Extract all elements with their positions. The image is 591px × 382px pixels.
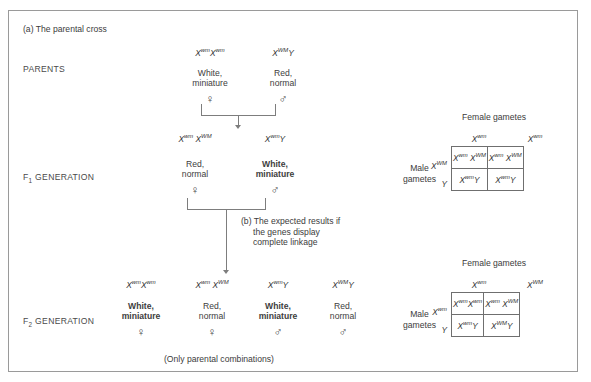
punnett-top-row-header-1: XWM <box>413 160 447 171</box>
punnett-bottom-cell-2-1: XwmY <box>452 315 484 337</box>
f2-offspring-4: XWMY Red, normal ♂ <box>303 279 383 338</box>
panel-b-caption-line1: (b) The expected results if <box>241 216 340 227</box>
f1-male-block: XwmY White, miniature ♂ <box>234 133 316 196</box>
f1-female-block: Xwm XWM Red, normal ♀ <box>154 133 236 196</box>
punnett-top-female-title: Female gametes <box>462 112 526 122</box>
f1-female-sex-symbol: ♀ <box>154 184 236 196</box>
panel-b-caption: (b) The expected results if the genes di… <box>241 216 340 248</box>
punnett-bottom-cell-1-2: Xwm XWM <box>484 293 520 315</box>
parent-male-block: XWMY Red, normal ♂ <box>242 47 324 105</box>
parent-female-block: XwmXwm White, miniature ♀ <box>169 47 251 105</box>
f1-male-phenotype-line2: miniature <box>234 169 316 180</box>
punnett-bottom-col-header-1: Xwm <box>451 279 507 290</box>
punnett-top-col-header-2: Xwm <box>507 133 563 144</box>
parent-male-sex-symbol: ♂ <box>242 93 324 105</box>
f1-male-phenotype-line1: White, <box>234 159 316 170</box>
parent-female-phenotype-line1: White, <box>169 68 251 79</box>
punnett-top-cell-2-1: XwmY <box>452 169 488 191</box>
punnett-top-row-1: Xwm XWM Xwm XWM <box>452 147 524 169</box>
f2-phenotype-4-line2: normal <box>303 311 383 322</box>
f1-female-genotype: Xwm XWM <box>154 133 236 144</box>
f2-sex-symbol-1: ♀ <box>101 326 181 338</box>
f2-phenotype-1-line1: White, <box>101 301 181 312</box>
parent-male-phenotype-line2: normal <box>242 78 324 89</box>
f2-phenotype-1-line2: miniature <box>101 311 181 322</box>
generation-label-f2: F2 GENERATION <box>23 316 94 328</box>
punnett-top-table: Xwm XWM Xwm XWM XwmY XwmY <box>451 146 524 191</box>
punnett-bottom-cell-2-2: XWMY <box>484 315 520 337</box>
f2-phenotype-4-line1: Red, <box>303 301 383 312</box>
parent-male-genotype: XWMY <box>242 47 324 58</box>
f2-genotype-1: XwmXwm <box>101 279 181 290</box>
punnett-top-cell-1-1: Xwm XWM <box>452 147 488 169</box>
generation-label-f1: F1 GENERATION <box>23 172 94 184</box>
punnett-bottom-cell-1-1: XwmXwm <box>452 293 484 315</box>
generation-label-f2-suffix: GENERATION <box>32 316 94 326</box>
punnett-top-cell-2-2: XwmY <box>487 169 523 191</box>
parent-female-sex-symbol: ♀ <box>169 93 251 105</box>
f1-female-phenotype-line2: normal <box>154 169 236 180</box>
parent-female-genotype: XwmXwm <box>169 47 251 58</box>
generation-label-f1-suffix: GENERATION <box>32 172 94 182</box>
punnett-top-row-2: XwmY XwmY <box>452 169 524 191</box>
punnett-top-cell-1-2: Xwm XWM <box>487 147 523 169</box>
panel-b-caption-line2: the genes display <box>241 227 340 238</box>
figure-frame: (a) The parental cross PARENTS XwmXwm Wh… <box>8 10 578 372</box>
f2-sex-symbol-4: ♂ <box>303 326 383 338</box>
panel-a-title: (a) The parental cross <box>23 24 107 34</box>
f1-male-genotype: XwmY <box>234 133 316 144</box>
f2-offspring-1: XwmXwm White, miniature ♀ <box>101 279 181 338</box>
punnett-top-row-header-2: Y <box>413 180 447 189</box>
parent-female-phenotype-line2: miniature <box>169 78 251 89</box>
punnett-bottom-table: XwmXwm Xwm XWM XwmY XWMY <box>451 292 520 337</box>
generation-label-parents: PARENTS <box>23 64 65 74</box>
punnett-bottom-row-2: XwmY XWMY <box>452 315 520 337</box>
generation-label-parents-text: PARENTS <box>23 64 65 74</box>
punnett-bottom-row-header-1: Xwm <box>413 306 447 317</box>
punnett-top-col-header-1: Xwm <box>451 133 507 144</box>
f2-genotype-4: XWMY <box>303 279 383 290</box>
f1-female-phenotype-line1: Red, <box>154 159 236 170</box>
panel-b-caption-line3: complete linkage <box>241 237 340 248</box>
footnote: (Only parental combinations) <box>164 354 274 365</box>
punnett-bottom-col-header-2: XWM <box>507 279 563 290</box>
punnett-bottom-row-1: XwmXwm Xwm XWM <box>452 293 520 315</box>
parent-male-phenotype-line1: Red, <box>242 68 324 79</box>
f1-male-sex-symbol: ♂ <box>234 184 316 196</box>
punnett-bottom-row-header-2: Y <box>413 326 447 335</box>
punnett-bottom-female-title: Female gametes <box>462 258 526 268</box>
